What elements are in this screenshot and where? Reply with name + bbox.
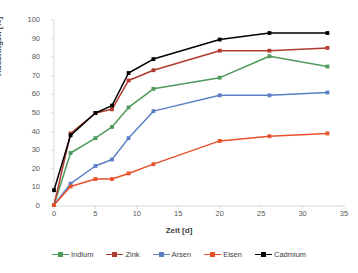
data-point-indium-5 (152, 87, 156, 91)
data-point-arsen-3 (110, 158, 114, 162)
series-zink (52, 46, 329, 207)
plot-area (54, 20, 344, 206)
data-point-zink-7 (268, 49, 272, 53)
data-point-indium-3 (110, 125, 114, 129)
line-chart: Ausbringen [%] 0102030405060708090100 05… (0, 0, 358, 273)
data-point-arsen-4 (127, 136, 131, 140)
x-tick-label: 35 (332, 210, 356, 218)
series-eisen (52, 132, 329, 207)
data-point-arsen-7 (268, 93, 272, 97)
data-point-indium-7 (268, 54, 272, 58)
series-arsen (52, 91, 329, 207)
y-tick-label: 10 (14, 184, 40, 192)
data-point-cadmium-8 (326, 31, 330, 35)
x-tick-label: 25 (249, 210, 273, 218)
data-point-cadmium-4 (127, 71, 131, 75)
y-tick-label: 40 (14, 128, 40, 136)
x-tick-label: 10 (125, 210, 149, 218)
series-indium (52, 54, 329, 207)
series-line-arsen (54, 93, 327, 206)
legend-item-eisen[interactable]: Eisen (204, 250, 242, 259)
series-line-indium (54, 56, 327, 205)
data-point-cadmium-1 (69, 133, 73, 137)
legend-swatch-icon (204, 251, 221, 258)
x-tick-label: 20 (208, 210, 232, 218)
data-point-cadmium-7 (268, 31, 272, 35)
y-tick-label: 30 (14, 146, 40, 154)
data-point-eisen-6 (218, 139, 222, 143)
legend-swatch-icon (52, 251, 69, 258)
data-point-arsen-5 (152, 109, 156, 113)
data-point-cadmium-2 (94, 111, 98, 115)
legend-label: Arsen (172, 250, 192, 259)
data-point-arsen-2 (94, 164, 98, 168)
y-tick-label: 50 (14, 109, 40, 117)
data-point-eisen-8 (326, 132, 330, 136)
x-tick-label: 30 (291, 210, 315, 218)
data-point-indium-6 (218, 76, 222, 80)
data-point-eisen-2 (94, 177, 98, 181)
data-point-cadmium-5 (152, 57, 156, 61)
data-point-indium-2 (94, 136, 98, 140)
x-tick-label: 0 (42, 210, 66, 218)
data-point-indium-8 (326, 65, 330, 69)
y-tick-label: 90 (14, 35, 40, 43)
legend-label: Zink (125, 250, 139, 259)
legend-item-arsen[interactable]: Arsen (153, 250, 192, 259)
data-point-indium-4 (127, 106, 131, 110)
x-tick-label: 15 (166, 210, 190, 218)
data-point-eisen-0 (52, 203, 56, 207)
data-point-arsen-8 (326, 91, 330, 95)
data-point-zink-4 (127, 79, 131, 83)
data-point-eisen-3 (110, 177, 114, 181)
legend-item-cadmium[interactable]: Cadmium (255, 250, 306, 259)
legend-swatch-icon (255, 251, 272, 258)
x-tick-label: 5 (83, 210, 107, 218)
chart-legend: IndiumZinkArsenEisenCadmium (0, 250, 358, 259)
legend-swatch-icon (153, 251, 170, 258)
series-line-zink (54, 48, 327, 205)
data-point-eisen-1 (69, 185, 73, 189)
y-tick-label: 0 (14, 202, 40, 210)
data-point-eisen-4 (127, 172, 131, 176)
data-point-zink-8 (326, 46, 330, 50)
y-tick-label: 70 (14, 72, 40, 80)
legend-label: Cadmium (274, 250, 306, 259)
y-axis-title: Ausbringen [%] (0, 17, 3, 76)
legend-label: Eisen (223, 250, 242, 259)
y-tick-label: 100 (14, 16, 40, 24)
legend-swatch-icon (106, 251, 123, 258)
legend-label: Indium (71, 250, 94, 259)
legend-item-indium[interactable]: Indium (52, 250, 94, 259)
y-tick-label: 60 (14, 91, 40, 99)
y-tick-label: 20 (14, 165, 40, 173)
data-point-indium-1 (69, 151, 73, 155)
data-point-zink-5 (152, 68, 156, 72)
data-point-zink-6 (218, 49, 222, 53)
data-point-cadmium-0 (52, 188, 56, 192)
data-point-eisen-5 (152, 162, 156, 166)
data-point-cadmium-3 (110, 104, 114, 108)
legend-item-zink[interactable]: Zink (106, 250, 139, 259)
data-point-arsen-6 (218, 93, 222, 97)
data-point-cadmium-6 (218, 38, 222, 42)
data-point-eisen-7 (268, 134, 272, 138)
x-axis-title: Zeit [d] (0, 226, 358, 235)
data-point-zink-3 (110, 107, 114, 111)
plot-svg (54, 20, 344, 206)
series-line-eisen (54, 133, 327, 205)
y-tick-label: 80 (14, 53, 40, 61)
